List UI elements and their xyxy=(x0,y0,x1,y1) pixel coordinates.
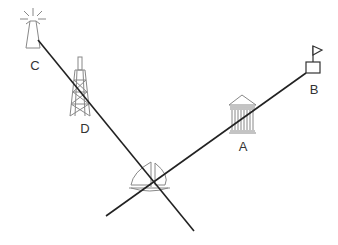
bearing-diagram xyxy=(0,0,338,245)
landmark-label-d: D xyxy=(80,122,89,135)
bearing-line-c-d xyxy=(38,40,194,231)
bearing-line-b-a xyxy=(106,73,306,216)
landmark-label-a: A xyxy=(239,140,248,153)
bank-building-icon xyxy=(229,95,256,133)
lighthouse-icon xyxy=(20,8,46,48)
landmark-label-b: B xyxy=(310,83,319,96)
landmark-label-c: C xyxy=(30,59,39,72)
radio-tower-icon xyxy=(70,57,90,116)
flag-marker-icon xyxy=(306,46,322,73)
